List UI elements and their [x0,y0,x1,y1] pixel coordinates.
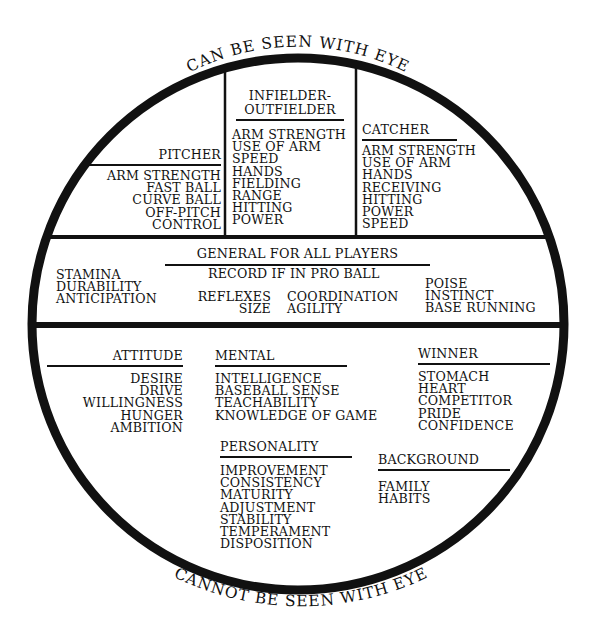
winner-block: WINNER STOMACH HEART COMPETITOR PRIDE CO… [418,347,550,432]
background-block: BACKGROUND FAMILY HABITS [378,453,510,505]
general-center-right-list: COORDINATION AGILITY [287,291,398,315]
attitude-list: DESIRE DRIVE WILLINGNESS HUNGER AMBITION [47,373,183,434]
list-item: SIZE [198,303,271,315]
list-item: ANTICIPATION [56,293,157,305]
mental-block: MENTAL INTELLIGENCE BASEBALL SENSE TEACH… [215,349,377,422]
record-if-in-pro-ball: RECORD IF IN PRO BALL [208,268,380,280]
catcher-block: CATCHER ARM STRENGTH USE OF ARM HANDS RE… [362,123,476,230]
personality-heading: PERSONALITY [220,440,352,458]
mental-list: INTELLIGENCE BASEBALL SENSE TEACHABILITY… [215,373,377,422]
general-center-left-list: REFLEXES SIZE [198,291,271,315]
pitcher-block: PITCHER ARM STRENGTH FAST BALL CURVE BAL… [88,148,221,231]
personality-block: PERSONALITY IMPROVEMENT CONSISTENCY MATU… [220,440,352,550]
list-item: KNOWLEDGE OF GAME [215,410,377,422]
heading-line-2: OUTFIELDER [236,103,344,117]
pitcher-heading: PITCHER [88,148,221,166]
general-heading: GENERAL FOR ALL PLAYERS [165,247,430,266]
winner-heading: WINNER [418,347,550,365]
infielder-outfielder-block: INFIELDER- OUTFIELDER ARM STRENGTH USE O… [232,89,346,227]
list-item: CONFIDENCE [418,420,550,432]
background-list: FAMILY HABITS [378,481,510,505]
catcher-list: ARM STRENGTH USE OF ARM HANDS RECEIVING … [362,145,476,230]
list-item: BASE RUNNING [425,302,536,314]
list-item: AMBITION [47,422,183,434]
list-item: DISPOSITION [220,538,352,550]
list-item: POWER [232,214,346,226]
winner-list: STOMACH HEART COMPETITOR PRIDE CONFIDENC… [418,371,550,432]
list-item: SPEED [362,218,476,230]
catcher-heading: CATCHER [362,123,457,141]
personality-list: IMPROVEMENT CONSISTENCY MATURITY ADJUSTM… [220,465,352,550]
list-item: AGILITY [287,303,398,315]
mental-heading: MENTAL [215,349,347,367]
general-right-list: POISE INSTINCT BASE RUNNING [425,278,536,315]
infielder-outfielder-heading: INFIELDER- OUTFIELDER [236,89,344,121]
infielder-outfielder-list: ARM STRENGTH USE OF ARM SPEED HANDS FIEL… [232,129,346,227]
background-heading: BACKGROUND [378,453,510,471]
general-left-list: STAMINA DURABILITY ANTICIPATION [56,269,157,306]
attitude-block: ATTITUDE DESIRE DRIVE WILLINGNESS HUNGER… [47,349,183,434]
list-item: CONTROL [88,219,221,231]
pitcher-list: ARM STRENGTH FAST BALL CURVE BALL OFF-PI… [88,170,221,231]
heading-line-1: INFIELDER- [236,89,344,103]
list-item: HABITS [378,493,510,505]
attitude-heading: ATTITUDE [47,349,183,367]
